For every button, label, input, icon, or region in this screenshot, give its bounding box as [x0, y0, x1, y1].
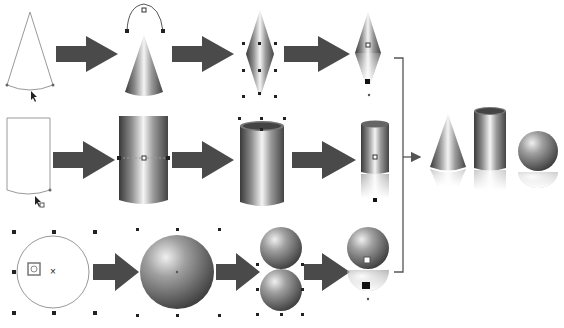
- cone-outline-step: [6, 12, 55, 102]
- final-sphere: [518, 131, 558, 188]
- sphere-mirror-step: [256, 227, 304, 316]
- cylinder-top-step: [238, 117, 286, 206]
- arrow-icon: [56, 36, 118, 72]
- arrow-icon: [304, 253, 350, 291]
- cone-reflection-step: [355, 12, 381, 96]
- arrow-icon: [284, 36, 350, 72]
- cone-mirror-step: [242, 10, 277, 98]
- final-cone: [430, 114, 466, 186]
- result-bracket: [394, 58, 420, 272]
- cylinder-outline-step: [7, 118, 52, 207]
- arrow-icon: [216, 253, 260, 291]
- cursor-icon: [31, 91, 37, 102]
- arrow-icon: [172, 36, 234, 72]
- sphere-reflection-step: [347, 227, 389, 300]
- arrow-icon: [93, 253, 139, 291]
- cylinder-gradient-step: [117, 116, 170, 204]
- cylinder-reflection-step: [361, 121, 389, 203]
- arrow-icon: [172, 141, 234, 179]
- diagram-canvas: ×: [0, 0, 564, 328]
- sphere-outline-step: ×: [12, 230, 97, 315]
- center-mark-icon: ×: [50, 266, 56, 277]
- cone-gradient-step: [125, 4, 165, 96]
- arrow-icon: [53, 141, 115, 179]
- sphere-radial-step: [136, 228, 221, 317]
- final-cylinder: [474, 107, 506, 190]
- arrow-icon: [292, 141, 356, 179]
